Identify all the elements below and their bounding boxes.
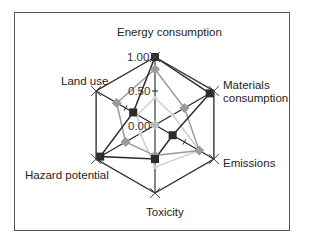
axis-label-materials: Materials consumption — [223, 79, 288, 105]
data-marker-circle — [153, 165, 157, 169]
data-marker-square — [96, 153, 104, 161]
data-marker-square — [169, 131, 177, 139]
tick-label-1: 1.00 — [127, 51, 149, 63]
center-marker — [150, 120, 160, 130]
data-marker-circle — [138, 132, 142, 136]
tick-label-05: 0.50 — [128, 85, 150, 97]
data-marker-circle — [171, 113, 175, 117]
axis-label-toxicity: Toxicity — [146, 206, 184, 219]
data-marker-square — [206, 89, 214, 97]
axis-label-materials-line2: consumption — [223, 92, 288, 105]
data-marker-square — [129, 108, 137, 116]
tick-label-0: 0.00 — [128, 120, 150, 132]
axis-label-hazard: Hazard potential — [25, 169, 109, 182]
axis-label-energy: Energy consumption — [117, 26, 222, 39]
data-marker-circle — [153, 96, 157, 100]
data-marker-diamond — [121, 137, 131, 147]
data-marker-square — [151, 155, 159, 163]
axis-label-materials-line1: Materials — [223, 79, 288, 92]
axis-label-land-use: Land use — [61, 75, 108, 88]
axis-label-emissions: Emissions — [223, 157, 275, 170]
